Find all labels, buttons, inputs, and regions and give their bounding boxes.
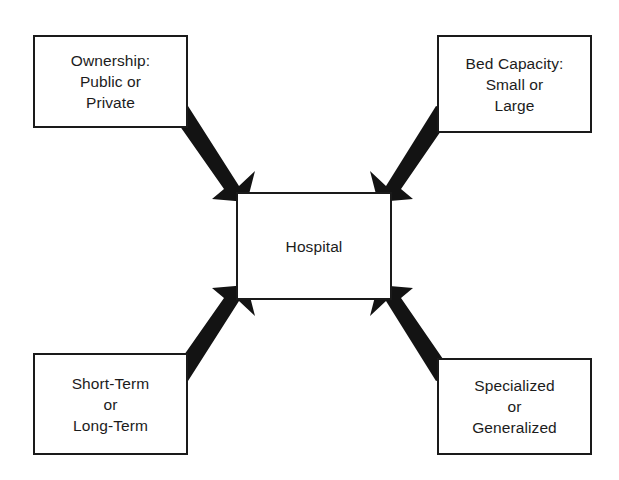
node-scope[interactable]: Specialized or Generalized bbox=[437, 358, 592, 455]
node-bed-capacity-line-2: Small or bbox=[486, 74, 544, 95]
center-node[interactable]: Hospital bbox=[236, 192, 392, 300]
node-bed-capacity-line-1: Bed Capacity: bbox=[466, 53, 564, 74]
node-term-length-line-1: Short-Term bbox=[72, 373, 150, 394]
node-scope-line-3: Generalized bbox=[472, 417, 557, 438]
node-bed-capacity-line-3: Large bbox=[494, 95, 534, 116]
node-ownership-line-2: Public or bbox=[80, 71, 141, 92]
node-term-length-line-3: Long-Term bbox=[73, 415, 148, 436]
node-bed-capacity[interactable]: Bed Capacity: Small or Large bbox=[437, 35, 592, 133]
diagram-canvas: Ownership: Public or Private Bed Capacit… bbox=[0, 0, 619, 480]
node-scope-line-2: or bbox=[508, 396, 522, 417]
center-node-label: Hospital bbox=[286, 236, 343, 257]
node-ownership-line-1: Ownership: bbox=[71, 50, 150, 71]
node-term-length[interactable]: Short-Term or Long-Term bbox=[33, 353, 188, 455]
node-ownership-line-3: Private bbox=[86, 92, 135, 113]
node-scope-line-1: Specialized bbox=[474, 375, 554, 396]
node-ownership[interactable]: Ownership: Public or Private bbox=[33, 35, 188, 128]
node-term-length-line-2: or bbox=[104, 394, 118, 415]
